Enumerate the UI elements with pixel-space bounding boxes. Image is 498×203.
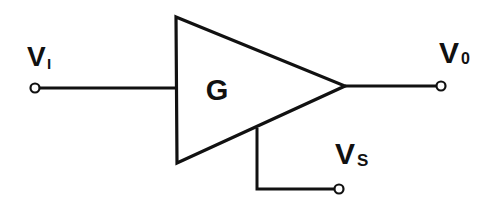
output-label: V 0 <box>439 36 470 69</box>
supply-label: V S <box>335 137 368 170</box>
output-label-symbol: V <box>439 36 459 69</box>
input-label-symbol: V <box>27 41 46 72</box>
supply-label-symbol: V <box>335 137 355 170</box>
amplifier-triangle <box>176 17 345 163</box>
input-terminal <box>31 84 40 93</box>
input-connection <box>31 84 178 93</box>
input-label-subscript: I <box>47 55 51 72</box>
input-label: V I <box>27 41 51 72</box>
supply-wire <box>257 128 334 189</box>
supply-label-subscript: S <box>357 151 368 170</box>
amplifier-block: G <box>176 17 345 163</box>
amplifier-diagram: G V I V 0 V S <box>0 0 498 203</box>
supply-terminal <box>335 185 344 194</box>
gain-label: G <box>206 74 229 106</box>
supply-connection <box>257 128 344 194</box>
output-connection <box>345 82 446 91</box>
output-terminal <box>437 82 446 91</box>
output-label-subscript: 0 <box>461 50 470 67</box>
